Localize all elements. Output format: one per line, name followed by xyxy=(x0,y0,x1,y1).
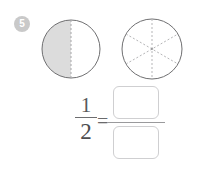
center-point xyxy=(151,48,153,50)
known-fraction-numerator: 1 xyxy=(74,94,98,116)
answer-fraction-bar xyxy=(107,122,165,123)
known-fraction-denominator: 2 xyxy=(74,119,98,144)
half-shaded-circle-figure xyxy=(40,12,102,86)
sixths-circle-figure xyxy=(119,12,185,86)
fraction-equation: 1 2 = xyxy=(0,86,200,174)
answer-denominator-input[interactable] xyxy=(113,126,159,159)
answer-fraction xyxy=(107,86,165,159)
known-fraction-bar xyxy=(75,117,97,118)
fraction-figures-row xyxy=(0,0,200,88)
worksheet-exercise: 5 1 2 = xyxy=(0,0,200,174)
answer-numerator-input[interactable] xyxy=(113,86,159,119)
known-fraction: 1 2 xyxy=(74,94,98,144)
